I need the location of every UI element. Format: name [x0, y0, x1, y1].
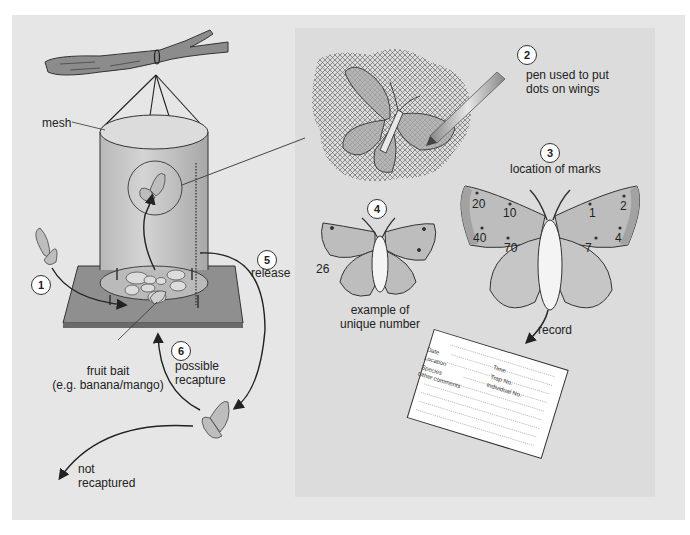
pen-label: pen used to put dots on wings [526, 68, 609, 96]
location-of-marks-label: location of marks [510, 162, 601, 176]
mark-value-70: 70 [504, 241, 517, 255]
step-3-marker: 3 [540, 143, 560, 163]
not-recaptured-label: not recaptured [78, 462, 135, 490]
step-4-marker: 4 [367, 199, 387, 219]
butterfly-example-number [322, 218, 436, 296]
step-2-marker: 2 [517, 45, 537, 65]
possible-recapture-label: possible recapture [175, 359, 226, 387]
pen-label-line1: pen used to put [526, 68, 609, 82]
not-recaptured-line1: not [78, 462, 135, 476]
step-6-marker: 6 [171, 341, 191, 361]
mark-value-1: 1 [589, 206, 596, 220]
butterfly-mark-locations [461, 186, 640, 310]
mesh-label: mesh [42, 116, 71, 130]
mark-value-7: 7 [585, 241, 592, 255]
record-label: record [538, 323, 572, 337]
mark-value-2: 2 [620, 199, 627, 213]
not-recaptured-line2: recaptured [78, 476, 135, 490]
mark-value-40: 40 [473, 231, 486, 245]
release-label: release [251, 266, 290, 280]
example-number-value: 26 [316, 262, 329, 276]
example-label-line2: unique number [335, 317, 425, 331]
mark-value-4: 4 [615, 231, 622, 245]
mesh-leader-line [72, 122, 105, 130]
mark-value-10: 10 [503, 206, 516, 220]
butterfly-icon-approaching [36, 228, 57, 265]
step-1-marker: 1 [31, 275, 51, 295]
fruit-bait-label-line1: fruit bait [48, 364, 168, 378]
branch-icon [45, 30, 228, 75]
possible-recapture-line2: recapture [175, 373, 226, 387]
fruit-bait-label-line2: (e.g. banana/mango) [48, 378, 168, 392]
possible-recapture-line1: possible [175, 359, 226, 373]
mark-value-20: 20 [472, 197, 485, 211]
example-label-line1: example of [335, 303, 425, 317]
fruit-bait-label: fruit bait (e.g. banana/mango) [48, 364, 168, 392]
butterfly-icon-released [202, 401, 229, 438]
example-unique-number-label: example of unique number [335, 303, 425, 331]
pen-label-line2: dots on wings [526, 82, 609, 96]
